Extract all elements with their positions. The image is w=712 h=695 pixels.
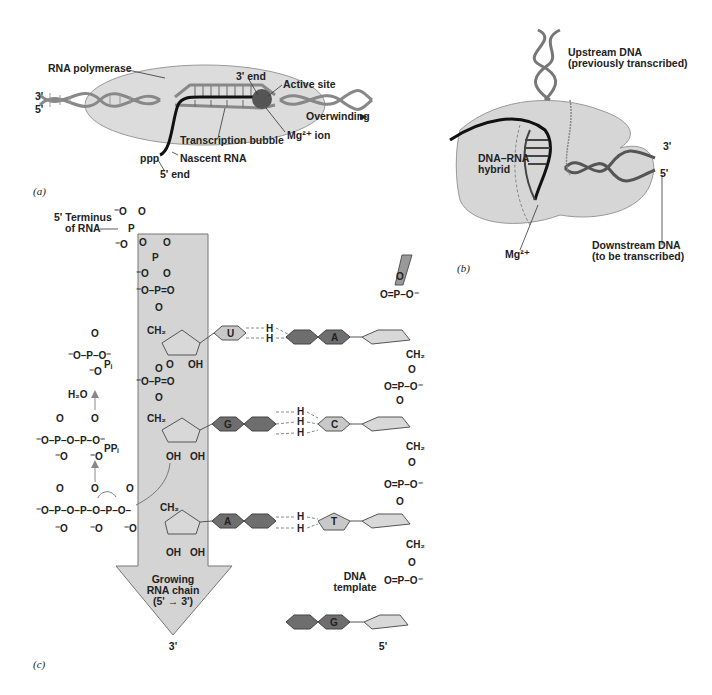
upstream-dna-helix	[534, 30, 560, 100]
svg-text:A: A	[331, 332, 338, 343]
svg-text:P: P	[128, 223, 135, 234]
dna-base-a: A	[286, 330, 350, 344]
o-1: O	[166, 359, 174, 370]
h-bond: H	[266, 333, 273, 344]
svg-text:O: O	[408, 457, 416, 468]
label-rna-3prime: 3'	[169, 640, 177, 652]
svg-text:P: P	[152, 252, 159, 263]
ch2-dna-3: CH₂	[406, 539, 425, 550]
ch2-dna-2: CH₂	[406, 441, 425, 452]
svg-text:O: O	[155, 392, 163, 403]
svg-text:O: O	[56, 413, 64, 424]
ch2-1: CH₂	[147, 325, 166, 336]
label-rna-polymerase: RNA polymerase	[48, 62, 132, 74]
svg-text:O=P–O⁻: O=P–O⁻	[384, 575, 423, 586]
label-ppp: ppp	[140, 152, 159, 164]
label-5prime-a: 5'	[35, 103, 43, 115]
svg-text:O: O	[155, 302, 163, 313]
label-ppi: PPᵢ	[104, 443, 119, 454]
orthophosphate: ⁻O–P–O⁻ O ⁻O Pᵢ	[68, 328, 113, 377]
ch2-dna-1: CH₂	[406, 349, 425, 360]
label-3prime-b: 3'	[663, 140, 671, 152]
svg-text:O=P–O⁻: O=P–O⁻	[384, 479, 423, 490]
label-hybrid: hybrid	[478, 163, 510, 175]
dna-base-c: C	[318, 417, 350, 431]
ch2-3: CH₂	[160, 502, 179, 513]
svg-text:T: T	[331, 516, 337, 527]
oh-1: OH	[188, 359, 203, 370]
svg-text:G: G	[330, 617, 338, 628]
pyrophosphate: ⁻O–P–O–P–O⁻ OO ⁻O⁻O PPᵢ	[36, 413, 119, 462]
label-transcription-bubble: Transcription bubble	[180, 134, 284, 146]
svg-text:O: O	[91, 483, 99, 494]
transcription-diagram: RNA polymerase 3' end Active site 3' 5' …	[0, 0, 712, 695]
label-template: template	[333, 581, 376, 593]
ch2-2: CH₂	[147, 413, 166, 424]
oh-3a: OH	[166, 547, 181, 558]
glycosidic-bonds	[200, 333, 364, 622]
svg-text:O: O	[56, 483, 64, 494]
svg-text:O: O	[163, 268, 171, 279]
svg-text:O: O	[91, 328, 99, 339]
svg-text:O: O	[155, 363, 163, 374]
panel-a: RNA polymerase 3' end Active site 3' 5' …	[33, 62, 372, 198]
svg-text:⁻O–P–O–P–O⁻: ⁻O–P–O–P–O⁻	[36, 435, 105, 446]
up-arrow-icon	[91, 390, 99, 398]
svg-text:G: G	[224, 419, 232, 430]
oh-2a: OH	[166, 451, 181, 462]
label-5prime-b: 5'	[660, 167, 668, 179]
svg-text:O=P–O⁻: O=P–O⁻	[384, 381, 423, 392]
incoming-ntp: ⁻O–P–O–P–O–P–O– OOO ⁻O⁻O⁻O	[36, 483, 137, 534]
svg-text:O: O	[396, 496, 404, 507]
h-bond: H	[297, 511, 304, 522]
active-site-shape	[252, 89, 272, 109]
label-water: H₂O	[68, 389, 88, 400]
label-5-end: 5' end	[160, 168, 190, 180]
label-direction: (5' → 3')	[153, 595, 193, 607]
oh-2b: OH	[190, 451, 205, 462]
h-bond: H	[297, 416, 304, 427]
label-pi: Pᵢ	[104, 359, 113, 370]
svg-text:O: O	[396, 271, 404, 282]
rna-base-a: A	[212, 514, 276, 528]
h-bond: H	[297, 523, 304, 534]
panel-label-a: (a)	[33, 185, 46, 198]
dna-base-g: G	[286, 615, 350, 629]
svg-text:O: O	[126, 483, 134, 494]
label-downstream-dna-sub: (to be transcribed)	[592, 250, 684, 262]
svg-text:⁻O: ⁻O	[55, 523, 68, 534]
svg-text:⁻O–P–O–P–O–P–O–: ⁻O–P–O–P–O–P–O–	[36, 505, 131, 516]
label-mg-ion: Mg²⁺ ion	[287, 129, 330, 141]
panel-c: Growing RNA chain (5' → 3') 3' 5' Termin…	[33, 206, 425, 671]
label-of-rna: of RNA	[65, 222, 101, 234]
panel-label-b: (b)	[457, 262, 470, 275]
svg-text:⁻O: ⁻O	[136, 268, 149, 279]
svg-text:A: A	[224, 516, 231, 527]
svg-text:⁻O: ⁻O	[55, 451, 68, 462]
panel-b: Upstream DNA (previously transcribed) DN…	[450, 30, 688, 275]
svg-text:⁻O: ⁻O	[89, 366, 102, 377]
panel-label-c: (c)	[33, 658, 46, 671]
svg-text:⁻O: ⁻O	[115, 239, 128, 250]
label-nascent-rna: Nascent RNA	[180, 152, 247, 164]
svg-text:O: O	[91, 413, 99, 424]
h-bond: H	[297, 427, 304, 438]
svg-text:O: O	[163, 237, 171, 248]
svg-text:O: O	[396, 395, 404, 406]
label-upstream-dna-sub: (previously transcribed)	[568, 57, 688, 69]
svg-text:U: U	[227, 328, 234, 339]
svg-text:⁻O: ⁻O	[90, 451, 103, 462]
label-active-site: Active site	[283, 78, 336, 90]
svg-text:O: O	[408, 557, 416, 568]
label-dna-5prime: 5'	[379, 640, 387, 652]
svg-text:⁻O: ⁻O	[90, 523, 103, 534]
svg-text:C: C	[331, 419, 338, 430]
rna-base-g: G	[212, 417, 276, 431]
rna-base-u: U	[214, 326, 246, 340]
svg-text:O: O	[408, 364, 416, 375]
svg-text:⁻O–P=O: ⁻O–P=O	[136, 285, 175, 296]
svg-text:⁻O–P=O: ⁻O–P=O	[136, 376, 175, 387]
oh-3b: OH	[190, 547, 205, 558]
label-3prime-a: 3'	[35, 90, 43, 102]
label-mg-b: Mg²⁺	[505, 248, 530, 260]
